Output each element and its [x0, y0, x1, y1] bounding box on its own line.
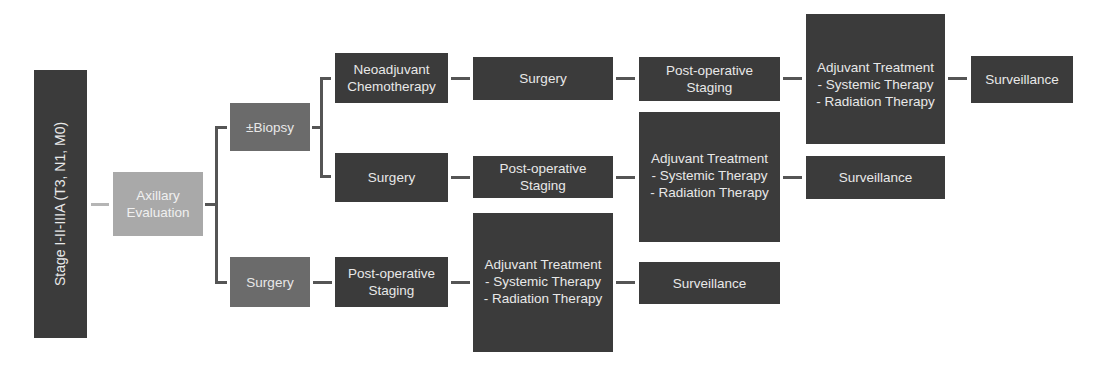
connector: [783, 176, 802, 179]
connector: [948, 77, 967, 80]
surgery-box-row1: Surgery: [473, 57, 613, 100]
axillary-evaluation-box: Axillary Evaluation: [113, 172, 203, 236]
connector: [451, 281, 470, 284]
surveillance-box-row2: Surveillance: [806, 156, 945, 199]
connector: [313, 281, 332, 284]
bracket-biopsy-top-arm: [320, 77, 331, 80]
connector: [616, 281, 635, 284]
post-operative-staging-box-row1: Post-operative Staging: [639, 57, 780, 101]
connector: [616, 77, 635, 80]
biopsy-box: ±Biopsy: [230, 103, 310, 151]
adjuvant-treatment-box-row2: Adjuvant Treatment - Systemic Therapy - …: [639, 112, 780, 242]
surveillance-box-row3: Surveillance: [639, 262, 780, 304]
bracket-top-arm: [215, 126, 227, 129]
stage-box: Stage I-II-IIIA (T3, N1, M0): [34, 70, 87, 338]
surveillance-box-row1: Surveillance: [971, 56, 1073, 103]
bracket-biopsy: [320, 77, 323, 178]
adjuvant-treatment-box-row3: Adjuvant Treatment - Systemic Therapy - …: [473, 213, 613, 352]
connector: [616, 176, 635, 179]
post-operative-staging-box-row3: Post-operative Staging: [335, 257, 448, 307]
neoadjuvant-chemotherapy-box: Neoadjuvant Chemotherapy: [335, 53, 448, 103]
bracket-biopsy-bottom-arm: [320, 175, 331, 178]
connector: [451, 176, 470, 179]
bracket-axillary: [215, 126, 218, 284]
connector: [783, 77, 802, 80]
connector-stage-axillary: [91, 203, 109, 206]
connector: [451, 77, 470, 80]
surgery-box-row3: Surgery: [230, 257, 310, 307]
adjuvant-treatment-box-row1: Adjuvant Treatment - Systemic Therapy - …: [806, 14, 945, 144]
bracket-bottom-arm: [215, 281, 227, 284]
surgery-box-row2: Surgery: [335, 153, 448, 202]
post-operative-staging-box-row2: Post-operative Staging: [473, 156, 613, 198]
